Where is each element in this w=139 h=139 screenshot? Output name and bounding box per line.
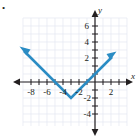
y-tick-label-pos6: 6 [85,21,90,31]
y-tick-label-pos2: 2 [85,53,90,63]
y-tick-label-pos4: 4 [85,37,90,47]
x-tick-label-pos2: 2 [109,87,114,97]
x-axis-label: x [130,71,135,81]
y-tick-label-neg4: -4 [84,109,92,119]
x-tick-label-neg4: -4 [59,87,67,97]
figure-container: -8 -6 -4 -2 2 6 4 2 -2 -4 x y • [0,0,139,139]
figure-background [0,0,139,139]
figure-bullet-marker: • [2,3,5,13]
y-tick-label-neg2: -2 [84,93,92,103]
y-axis-label: y [97,5,102,15]
x-tick-label-neg6: -6 [43,87,51,97]
x-tick-label-neg8: -8 [27,87,35,97]
x-tick-label-neg2: -2 [75,87,83,97]
coordinate-plane-graph: -8 -6 -4 -2 2 6 4 2 -2 -4 x y • [0,0,139,139]
